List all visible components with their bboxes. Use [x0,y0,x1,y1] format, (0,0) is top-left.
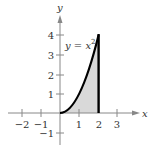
x-axis-arrow-icon [132,111,140,116]
x-tick-label: 2 [96,119,102,130]
y-tick-label: 3 [48,50,54,61]
curve-label-base: y = x [64,40,91,51]
x-tick-label: −2 [15,119,30,130]
x-tick-label: 1 [76,119,82,130]
y-tick-label: −1 [39,128,54,139]
x-axis-label: x [142,108,148,119]
curve-label-exponent: 2 [91,38,95,46]
y-axis-arrow-icon [58,15,63,23]
y-tick-label: 2 [48,70,54,81]
y-tick-label: 4 [48,30,54,41]
y-axis-label: y [56,2,63,13]
curve-label: y = x2 [64,38,96,51]
graph: −2 −1 1 2 3 −1 1 2 3 4 x y y = x2 [0,0,157,150]
y-tick-label: 1 [48,89,54,100]
x-tick-label: 3 [114,119,120,130]
